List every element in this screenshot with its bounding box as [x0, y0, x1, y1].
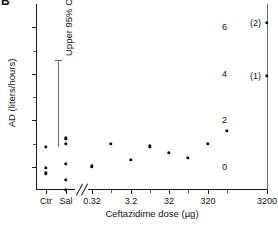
- y-tick-minor: [33, 97, 36, 98]
- x-tick-minor: [111, 190, 112, 193]
- data-point: [64, 162, 67, 165]
- x-tick: [131, 190, 132, 194]
- data-point: [64, 178, 67, 181]
- x-tick: [46, 190, 47, 194]
- data-point: [206, 142, 209, 145]
- x-tick: [169, 190, 170, 194]
- y-tick-label: 4: [222, 70, 227, 79]
- x-axis-title: Ceftazidime dose (µg): [36, 209, 268, 219]
- x-tick: [267, 190, 268, 194]
- y-tick-label: 0: [222, 163, 227, 172]
- y-axis-line: [36, 4, 37, 190]
- data-point: [265, 74, 268, 77]
- point-label-1: (1): [250, 72, 261, 81]
- data-point: [44, 166, 47, 169]
- x-tick: [208, 190, 209, 194]
- data-point: [186, 156, 189, 159]
- right-axis-line: [267, 4, 268, 190]
- data-point: [44, 145, 47, 148]
- y-tick-minor: [33, 51, 36, 52]
- figure-panel-b: B 0246 CtrSal0.323.2323203200 Upper 95% …: [0, 0, 278, 227]
- x-tick-minor: [150, 190, 151, 193]
- data-point: [148, 145, 151, 148]
- data-point: [109, 142, 112, 145]
- x-tick-minor: [227, 190, 228, 193]
- data-point: [64, 137, 67, 140]
- panel-label: B: [1, 0, 10, 7]
- x-axis-line: [36, 189, 268, 190]
- y-tick: [32, 120, 36, 121]
- data-point: [225, 129, 228, 132]
- upper-95-ci-line: [58, 60, 59, 147]
- data-point: [90, 165, 93, 168]
- x-tick-minor: [188, 190, 189, 193]
- y-tick-minor: [33, 144, 36, 145]
- data-point: [64, 142, 67, 145]
- y-tick-label: 6: [222, 23, 227, 32]
- y-axis-title: AD (liters/hours): [7, 33, 17, 153]
- plot-area: 0246 CtrSal0.323.2323203200 Upper 95% CI…: [36, 4, 268, 190]
- x-tick-label: 3200: [237, 197, 278, 206]
- y-tick-label: 2: [222, 116, 227, 125]
- data-point: [44, 172, 47, 175]
- x-tick-label: 320: [178, 197, 238, 206]
- data-point: [129, 158, 132, 161]
- point-label-2: (2): [250, 18, 261, 27]
- y-tick: [32, 27, 36, 28]
- y-tick: [32, 167, 36, 168]
- data-point: [64, 188, 67, 191]
- y-tick: [32, 74, 36, 75]
- upper-95-ci-cap: [55, 60, 62, 61]
- upper-95-ci-label: Upper 95% CI: [64, 0, 74, 56]
- data-point: [265, 21, 268, 24]
- data-point: [167, 151, 170, 154]
- x-tick: [92, 190, 93, 194]
